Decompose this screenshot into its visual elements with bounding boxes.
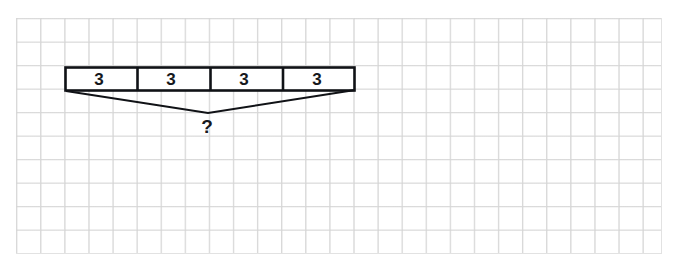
unknown-total-label: ? bbox=[201, 116, 213, 137]
bar-model-diagram: 3 3 3 3 ? bbox=[0, 0, 676, 267]
bar-segment-label: 3 bbox=[94, 70, 103, 89]
bar-segment-label: 3 bbox=[312, 70, 321, 89]
total-brace bbox=[66, 90, 355, 113]
bar-segment-label: 3 bbox=[166, 70, 175, 89]
diagram-canvas: 3 3 3 3 ? bbox=[0, 0, 676, 267]
bar-segment-label: 3 bbox=[239, 70, 248, 89]
